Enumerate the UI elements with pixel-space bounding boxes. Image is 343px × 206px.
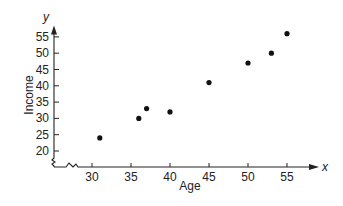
x-variable-label: x — [321, 160, 329, 174]
data-point — [206, 80, 211, 85]
axes — [51, 25, 319, 170]
y-axis-title: Income — [22, 75, 36, 115]
data-point — [167, 109, 172, 114]
data-points — [97, 31, 289, 141]
y-tick-label: 55 — [36, 30, 50, 44]
y-tick-label: 25 — [36, 128, 50, 142]
data-point — [144, 106, 149, 111]
data-point — [245, 60, 250, 65]
y-variable-label: y — [42, 10, 50, 24]
x-tick-label: 55 — [280, 170, 294, 184]
data-point — [97, 135, 102, 140]
x-tick-label: 45 — [202, 170, 216, 184]
y-axis-arrow-icon — [51, 25, 57, 34]
y-tick-label: 40 — [36, 79, 50, 93]
y-tick-label: 35 — [36, 95, 50, 109]
x-tick-label: 50 — [241, 170, 255, 184]
y-tick-label: 50 — [36, 46, 50, 60]
x-tick-label: 35 — [124, 170, 138, 184]
x-axis-line — [54, 163, 316, 167]
x-axis-arrow-icon — [309, 164, 319, 170]
data-point — [269, 51, 274, 56]
y-tick-label: 30 — [36, 111, 50, 125]
y-tick-label: 45 — [36, 63, 50, 77]
y-tick-label: 20 — [36, 144, 50, 158]
scatter-chart: 3035404550552025303540455055 Age Income … — [0, 0, 343, 206]
ticks: 3035404550552025303540455055 — [36, 30, 294, 184]
x-tick-label: 30 — [85, 170, 99, 184]
x-axis-title: Age — [179, 179, 201, 193]
data-point — [136, 116, 141, 121]
data-point — [284, 31, 289, 36]
x-tick-label: 40 — [163, 170, 177, 184]
y-axis-line — [52, 29, 55, 167]
